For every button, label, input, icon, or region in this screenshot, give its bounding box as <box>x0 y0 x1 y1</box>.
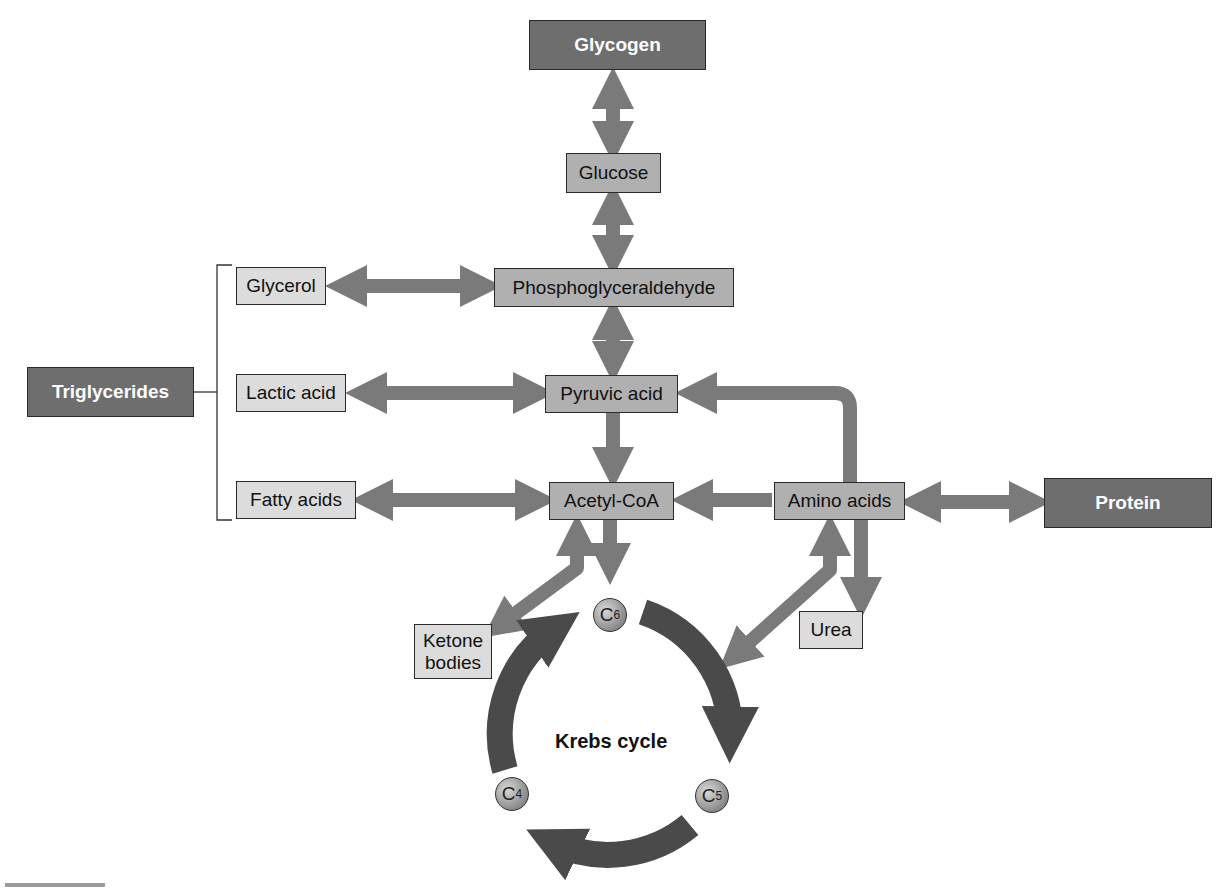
node-glycerol: Glycerol <box>236 267 326 305</box>
node-label: Phosphoglyceraldehyde <box>513 277 716 299</box>
node-label: Acetyl-CoA <box>564 490 659 512</box>
node-label: Glycogen <box>574 34 661 56</box>
carbon-symbol: C <box>702 785 716 807</box>
carbon-c4-node: C4 <box>495 777 529 811</box>
node-urea: Urea <box>799 611 863 649</box>
node-label-line1: Ketone <box>423 630 483 652</box>
node-label: Glucose <box>579 162 649 184</box>
node-pyruvic-acid: Pyruvic acid <box>545 375 678 413</box>
carbon-count: 4 <box>516 787 523 801</box>
node-acetyl-coa: Acetyl-CoA <box>549 482 674 520</box>
node-amino-acids: Amino acids <box>774 482 905 520</box>
carbon-count: 5 <box>716 789 723 803</box>
node-label: Pyruvic acid <box>560 383 662 405</box>
node-ketone-bodies: Ketone bodies <box>414 624 492 679</box>
node-fatty-acids: Fatty acids <box>236 481 356 519</box>
node-label: Urea <box>810 619 851 641</box>
pathway-arrows <box>0 0 1230 890</box>
node-label: Glycerol <box>246 275 316 297</box>
node-label: Triglycerides <box>52 381 169 403</box>
node-triglycerides: Triglycerides <box>27 367 194 417</box>
node-label: Amino acids <box>788 490 892 512</box>
node-glucose: Glucose <box>566 153 661 193</box>
carbon-symbol: C <box>600 604 614 626</box>
carbon-c5-node: C5 <box>695 779 729 813</box>
triglycerides-bracket <box>194 265 232 520</box>
node-label: Fatty acids <box>250 489 342 511</box>
node-glycogen: Glycogen <box>529 20 706 70</box>
node-protein: Protein <box>1044 478 1212 528</box>
node-label-line2: bodies <box>425 652 481 674</box>
node-phosphoglyceraldehyde: Phosphoglyceraldehyde <box>494 268 734 307</box>
node-label: Lactic acid <box>246 382 336 404</box>
arrow-aminoacids-pyruvic <box>696 393 850 482</box>
node-label: Protein <box>1095 492 1160 514</box>
node-lactic-acid: Lactic acid <box>236 374 346 412</box>
carbon-c6-node: C6 <box>593 598 627 632</box>
arrow-acetylcoa-ketonebodies <box>500 535 577 625</box>
bottom-rule <box>5 883 105 887</box>
carbon-symbol: C <box>502 783 516 805</box>
carbon-count: 6 <box>614 608 621 622</box>
krebs-cycle-label: Krebs cycle <box>555 730 667 753</box>
